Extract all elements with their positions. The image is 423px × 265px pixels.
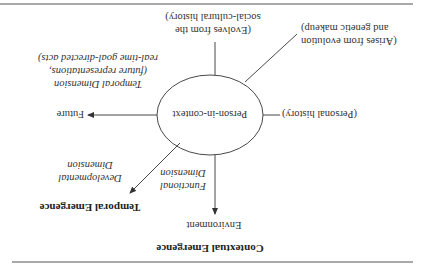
- contextual-emergence-heading: Contextual Emergence: [156, 243, 263, 255]
- temporal-emergence-heading: Temporal Emergence: [40, 202, 141, 214]
- developmental-dimension-label-line1: Developmental: [58, 173, 123, 184]
- person-in-context-diagram: Contextual Emergence Temporal Emergence …: [0, 0, 423, 265]
- social-cultural-label-line2: social-cultural history): [165, 11, 261, 23]
- temporal-dimension-label-line2: (future representations,: [49, 65, 147, 77]
- evolution-label-line2: and genetic makeup): [301, 22, 389, 34]
- social-cultural-label-line1: (Evolves from the: [175, 24, 251, 36]
- person-in-context-label: Person-in-context: [173, 109, 248, 120]
- developmental-dimension-label-line2: Dimension: [67, 160, 114, 171]
- evolution-label-line1: (Arises from evolution: [300, 35, 396, 47]
- functional-dimension-label-line2: Dimension: [160, 168, 207, 179]
- temporal-dimension-label-line3: real-time goal-directed acts): [38, 52, 158, 64]
- temporal-dimension-label-line1: Temporal Dimension: [54, 79, 142, 90]
- evolution-connector: [245, 34, 297, 82]
- diagram-stage: Contextual Emergence Temporal Emergence …: [0, 0, 423, 265]
- future-label: Future: [56, 109, 84, 120]
- functional-dimension-label-line1: Functional: [160, 181, 207, 192]
- environment-label: Environment: [187, 220, 242, 231]
- personal-history-label: (Personal history): [282, 108, 357, 120]
